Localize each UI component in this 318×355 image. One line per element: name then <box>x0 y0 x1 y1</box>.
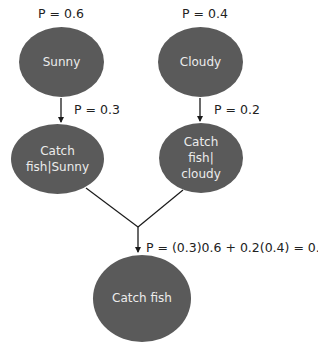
edge-catch-sunny-to-junction <box>86 188 138 227</box>
cloudy-edge-prob-label: P = 0.2 <box>214 104 260 117</box>
node-catch-fish-given-cloudy-label: Catch fish| cloudy <box>181 134 221 183</box>
node-sunny: Sunny <box>19 27 104 97</box>
cloudy-prior-label: P = 0.4 <box>182 8 228 21</box>
sunny-prior-label: P = 0.6 <box>38 8 84 21</box>
total-prob-formula-label: P = (0.3)0.6 + 0.2(0.4) = 0.26 <box>146 242 318 255</box>
node-cloudy-label: Cloudy <box>180 54 221 70</box>
node-sunny-label: Sunny <box>43 54 81 70</box>
node-cloudy: Cloudy <box>158 27 243 97</box>
sunny-edge-prob-label: P = 0.3 <box>74 104 120 117</box>
node-catch-fish: Catch fish <box>93 255 191 342</box>
edge-catch-cloudy-to-junction <box>138 190 183 227</box>
node-catch-fish-label: Catch fish <box>112 290 172 306</box>
node-catch-fish-given-cloudy: Catch fish| cloudy <box>159 123 243 193</box>
node-catch-fish-given-sunny: Catch fish|Sunny <box>11 124 104 194</box>
node-catch-fish-given-sunny-label: Catch fish|Sunny <box>26 143 89 175</box>
